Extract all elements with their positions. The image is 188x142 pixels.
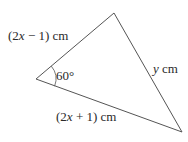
side-label-top-left: (2x − 1) cm xyxy=(8,28,68,43)
side-label-right: y cm xyxy=(151,61,178,76)
side-label-bottom: (2x + 1) cm xyxy=(56,109,116,124)
angle-label: 60° xyxy=(56,68,74,83)
triangle-diagram: 60° (2x − 1) cm (2x + 1) cm y cm xyxy=(0,0,188,142)
